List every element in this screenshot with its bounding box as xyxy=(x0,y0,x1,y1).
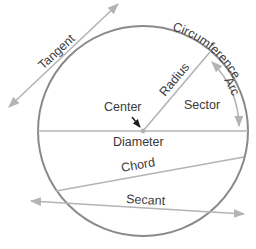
circle-diagram: Tangent Circumference Radius Arc Sector … xyxy=(0,0,256,249)
tangent-line xyxy=(9,4,118,107)
tangent-label: Tangent xyxy=(35,31,77,72)
radius-line xyxy=(143,52,210,131)
chord-label: Chord xyxy=(120,155,156,175)
center-label: Center xyxy=(104,100,142,114)
center-arrow xyxy=(132,117,140,127)
center-point xyxy=(141,129,146,134)
secant-label: Secant xyxy=(126,192,166,208)
diameter-label: Diameter xyxy=(113,135,164,149)
sector-label: Sector xyxy=(184,98,220,112)
